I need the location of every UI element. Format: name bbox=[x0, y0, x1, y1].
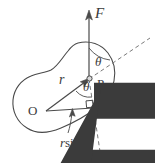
angle-label-bottom: θ bbox=[83, 80, 89, 93]
position-vector-label: r bbox=[59, 73, 64, 87]
torque-diagram-figure: F r P O θ θ rsinθ bbox=[0, 0, 155, 163]
angle-label-top: θ bbox=[95, 55, 101, 68]
force-vector-label: F bbox=[95, 6, 104, 21]
point-o-label: O bbox=[28, 104, 37, 117]
moment-arm-angle: θ bbox=[80, 135, 86, 150]
moment-arm-label: rsinθ bbox=[60, 136, 87, 149]
moment-arm-function: sin bbox=[65, 135, 80, 150]
point-p-label: P bbox=[97, 77, 104, 90]
